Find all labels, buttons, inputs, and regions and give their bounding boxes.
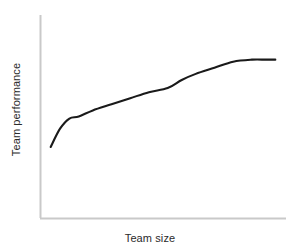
chart-plot-area bbox=[0, 0, 300, 250]
y-axis-label-container: Team performance bbox=[0, 0, 34, 218]
y-axis-label: Team performance bbox=[12, 62, 23, 155]
x-axis-label: Team size bbox=[0, 233, 300, 244]
performance-curve bbox=[51, 60, 276, 147]
chart-container: Team performance Team size bbox=[0, 0, 300, 250]
